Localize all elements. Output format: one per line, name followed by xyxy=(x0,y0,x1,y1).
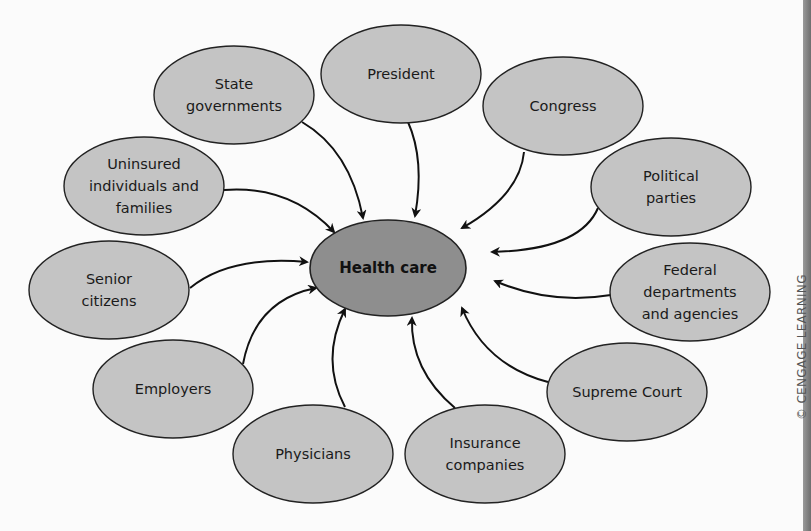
node-employers: Employers xyxy=(93,340,253,438)
node-state-governments: Stategovernments xyxy=(154,46,314,144)
center-node: Health care xyxy=(310,220,466,316)
arrow-insurance-companies xyxy=(412,318,455,408)
arrow-political-parties xyxy=(492,208,598,252)
node-president: President xyxy=(321,25,481,123)
node-label: companies xyxy=(446,457,525,473)
node-label: parties xyxy=(646,190,696,206)
node-label: Insurance xyxy=(449,435,520,451)
arrow-federal-departments xyxy=(495,281,611,298)
arrow-congress xyxy=(462,152,524,228)
node-label: State xyxy=(215,76,253,92)
node-label: Physicians xyxy=(275,446,351,462)
center-label: Health care xyxy=(339,259,437,277)
node-physicians: Physicians xyxy=(233,405,393,503)
node-label: citizens xyxy=(82,293,137,309)
page-edge-strip xyxy=(803,0,811,531)
node-ellipse xyxy=(405,405,565,503)
node-senior-citizens: Seniorcitizens xyxy=(29,241,189,339)
node-political-parties: Politicalparties xyxy=(591,138,751,236)
node-label: Congress xyxy=(529,98,596,114)
node-federal-departments: Federaldepartmentsand agencies xyxy=(610,243,770,341)
node-label: Employers xyxy=(135,381,211,397)
node-congress: Congress xyxy=(483,57,643,155)
node-label: families xyxy=(116,200,173,216)
arrow-uninsured xyxy=(224,190,334,232)
arrow-senior-citizens xyxy=(190,261,307,288)
health-care-diagram: StategovernmentsPresidentCongressPolitic… xyxy=(0,0,811,531)
arrow-president xyxy=(408,122,419,216)
node-ellipse xyxy=(591,138,751,236)
node-ellipse xyxy=(29,241,189,339)
node-ellipse xyxy=(154,46,314,144)
node-insurance-companies: Insurancecompanies xyxy=(405,405,565,503)
node-label: departments xyxy=(643,284,736,300)
node-label: and agencies xyxy=(642,306,739,322)
node-label: Supreme Court xyxy=(572,384,682,400)
node-supreme-court: Supreme Court xyxy=(547,343,707,441)
node-label: individuals and xyxy=(89,178,199,194)
node-label: Federal xyxy=(663,262,716,278)
node-label: Uninsured xyxy=(107,156,181,172)
node-label: President xyxy=(367,66,435,82)
node-label: Political xyxy=(643,168,699,184)
node-uninsured: Uninsuredindividuals andfamilies xyxy=(64,137,224,235)
arrow-supreme-court xyxy=(462,308,548,382)
arrow-employers xyxy=(243,288,316,364)
arrow-physicians xyxy=(333,309,346,407)
node-label: Senior xyxy=(86,271,132,287)
arrow-state-governments xyxy=(302,122,363,218)
node-label: governments xyxy=(186,98,282,114)
copyright-credit: © CENGAGE LEARNING xyxy=(795,274,809,420)
